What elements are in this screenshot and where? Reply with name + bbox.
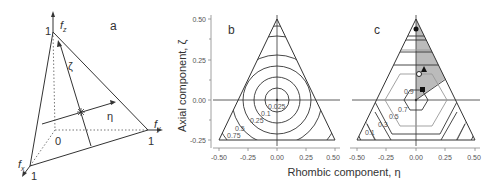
panel-a-letter: a [110,19,117,33]
svg-text:-0.25: -0.25 [240,154,256,161]
center-star-icon [77,108,85,116]
svg-text:0.7: 0.7 [398,106,408,113]
svg-text:-0.50: -0.50 [211,154,227,161]
svg-text:0.25: 0.25 [192,57,206,64]
svg-text:0.00: 0.00 [192,97,206,104]
fz-arrow-icon [51,11,55,17]
figure: fz 1 a ζ η fy 1 0 fx 1 Axial component, … [0,0,497,189]
simplex-triangle [30,32,148,166]
svg-text:0.025: 0.025 [268,103,286,110]
svg-text:-0.25: -0.25 [190,137,206,144]
panel-b-letter: b [228,23,235,37]
svg-text:0.00: 0.00 [270,154,284,161]
zeta-axis-line [60,44,91,146]
svg-text:0.9: 0.9 [404,88,414,95]
vertex-top-label: 1 [45,25,51,37]
marker-open-circle-icon [417,72,422,77]
panel-b-y-axis [208,15,211,148]
fx-label: fx [18,158,25,172]
svg-text:0.25: 0.25 [438,154,452,161]
y-axis-label: Axial component, ζ [176,40,188,132]
panel-b-x-ticks: -0.50 -0.25 0.00 0.25 0.50 [211,154,340,161]
svg-text:0.75: 0.75 [227,132,241,139]
panel-b-center-dot [276,99,278,101]
svg-text:0.00: 0.00 [409,154,423,161]
origin-dotted-z [53,32,55,130]
origin-label: 0 [55,135,61,147]
eta-arrow-icon [110,100,116,105]
panel-b-y-ticks: 0.50 0.25 0.00 -0.25 [190,16,206,144]
vertex-bottom-label: 1 [31,170,37,182]
zeta-label: ζ [68,60,73,72]
panel-b-x-axis [213,148,340,151]
svg-text:0.1: 0.1 [365,129,375,136]
marker-filled-square-icon [420,87,425,92]
svg-text:-0.50: -0.50 [349,154,365,161]
svg-text:0.50: 0.50 [192,16,206,23]
panel-c-x-ticks: -0.50 -0.25 0.00 0.25 0.50 [349,154,481,161]
svg-text:0.1: 0.1 [261,110,271,117]
svg-text:0.5: 0.5 [389,113,399,120]
fz-label: fz [60,19,67,33]
panel-c-center-dot [415,99,417,101]
panel-c-x-axis [350,148,480,151]
eta-label: η [107,110,113,122]
panel-a-labels: fz 1 a ζ η fy 1 0 fx 1 [18,19,161,182]
vertex-right-label: 1 [148,135,154,147]
marker-filled-circle-icon [414,27,419,32]
fy-label: fy [154,118,161,133]
svg-text:0.50: 0.50 [326,154,340,161]
panel-c-letter: c [374,23,380,37]
panel-c: -0.50 -0.25 0.00 0.25 0.50 c [342,15,490,161]
eta-axis-line [42,103,112,124]
origin-dotted-x [30,130,55,166]
svg-text:0.5: 0.5 [235,125,245,132]
x-axis-label: Rhombic component, η [287,166,400,178]
svg-text:0.25: 0.25 [250,117,264,124]
panel-a [22,11,163,177]
svg-text:-0.25: -0.25 [378,154,394,161]
svg-text:0.25: 0.25 [299,154,313,161]
svg-text:0.50: 0.50 [467,154,481,161]
svg-text:0.3: 0.3 [378,121,388,128]
